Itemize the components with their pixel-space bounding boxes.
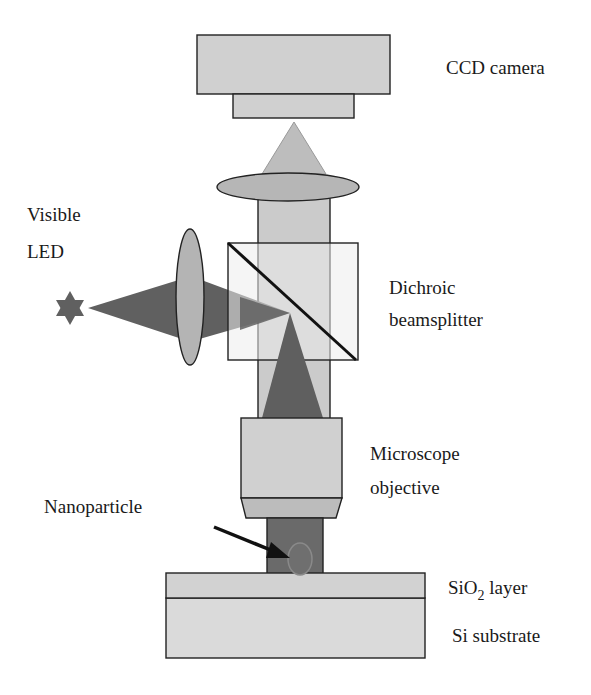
label-dichroic: Dichroic: [389, 277, 455, 298]
si-substrate: [166, 598, 425, 658]
label-beamsplitter: beamsplitter: [389, 309, 484, 330]
tube-lens: [217, 173, 359, 201]
label-visible: Visible: [27, 204, 81, 225]
label-nanoparticle: Nanoparticle: [44, 496, 142, 517]
substrate-stack: [166, 573, 425, 658]
sio2-layer: [166, 573, 425, 598]
led-star-icon: [56, 291, 84, 325]
label-led: LED: [27, 241, 64, 262]
label-ccd-camera: CCD camera: [446, 57, 545, 78]
label-sio2-layer: SiO2 layer: [448, 577, 528, 603]
label-si-substrate: Si substrate: [452, 625, 540, 646]
nanoparticle: [288, 543, 312, 575]
condenser-lens: [176, 229, 204, 365]
label-microscope: Microscope: [370, 443, 460, 464]
imaging-beam-cone: [262, 122, 326, 174]
microscope-objective: [241, 418, 342, 518]
ccd-camera: [197, 35, 390, 118]
label-objective: objective: [370, 477, 440, 498]
optical-setup-diagram: CCD camera Visible LED Dichroic beamspli…: [0, 0, 591, 695]
